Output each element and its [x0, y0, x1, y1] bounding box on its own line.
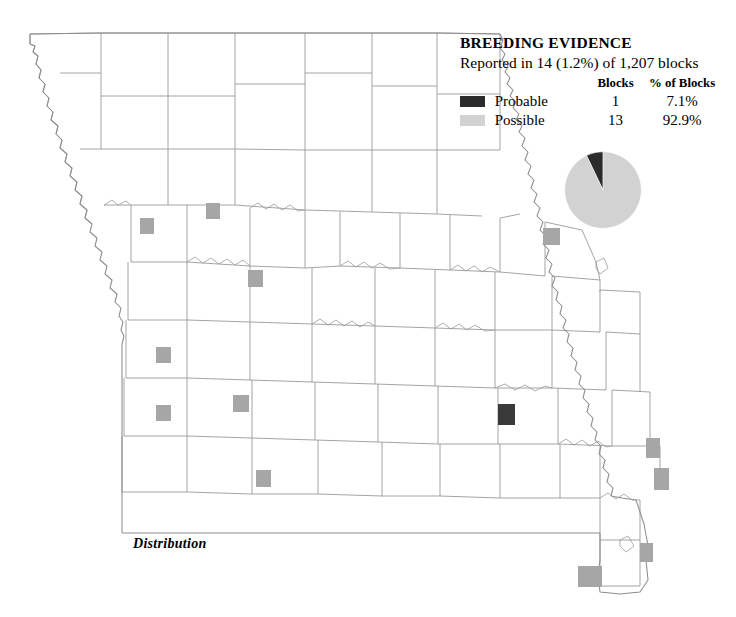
- block-marker-possible: [233, 395, 249, 412]
- legend-row-possible: Possible 13 92.9%: [460, 111, 722, 130]
- legend-header-percent: % of Blocks: [642, 76, 722, 92]
- legend-percent-probable: 7.1%: [642, 92, 722, 111]
- legend-blocks-probable: 1: [589, 92, 642, 111]
- block-marker-possible: [140, 218, 154, 234]
- map-figure: BREEDING EVIDENCE Reported in 14 (1.2%) …: [0, 0, 736, 617]
- legend-header-swatch: [460, 76, 491, 92]
- breeding-evidence-pie-chart: [564, 151, 642, 229]
- probable-color-swatch: [460, 96, 485, 107]
- legend-row-probable: Probable 1 7.1%: [460, 92, 722, 111]
- pie-slice-possible: [565, 152, 641, 228]
- legend-blocks-possible: 13: [589, 111, 642, 130]
- block-marker-possible: [640, 543, 653, 562]
- block-marker-possible: [543, 228, 560, 245]
- interior-detail: [104, 200, 640, 552]
- possible-color-swatch: [460, 115, 485, 126]
- block-marker-possible: [156, 405, 171, 421]
- block-marker-probable: [498, 404, 515, 425]
- legend-label-possible: Possible: [491, 111, 589, 130]
- block-marker-possible: [646, 438, 660, 458]
- legend-label-probable: Probable: [491, 92, 589, 111]
- distribution-caption: Distribution: [133, 536, 207, 552]
- legend-subtitle: Reported in 14 (1.2%) of 1,207 blocks: [460, 53, 722, 73]
- block-marker-possible: [578, 566, 602, 587]
- legend-swatch-possible: [460, 111, 491, 130]
- legend-table: Blocks % of Blocks Probable 1 7.1%: [460, 76, 722, 130]
- legend-header-row: Blocks % of Blocks: [460, 76, 722, 92]
- block-marker-possible: [256, 470, 271, 487]
- legend-swatch-probable: [460, 92, 491, 111]
- legend-percent-possible: 92.9%: [642, 111, 722, 130]
- legend-header-name: [491, 76, 589, 92]
- block-marker-possible: [248, 270, 263, 287]
- block-marker-possible: [206, 203, 220, 219]
- block-markers: [140, 203, 669, 587]
- legend-panel: BREEDING EVIDENCE Reported in 14 (1.2%) …: [460, 33, 722, 130]
- block-marker-possible: [156, 347, 171, 363]
- legend-title: BREEDING EVIDENCE: [460, 33, 722, 52]
- block-marker-possible: [654, 468, 669, 490]
- legend-header-blocks: Blocks: [589, 76, 642, 92]
